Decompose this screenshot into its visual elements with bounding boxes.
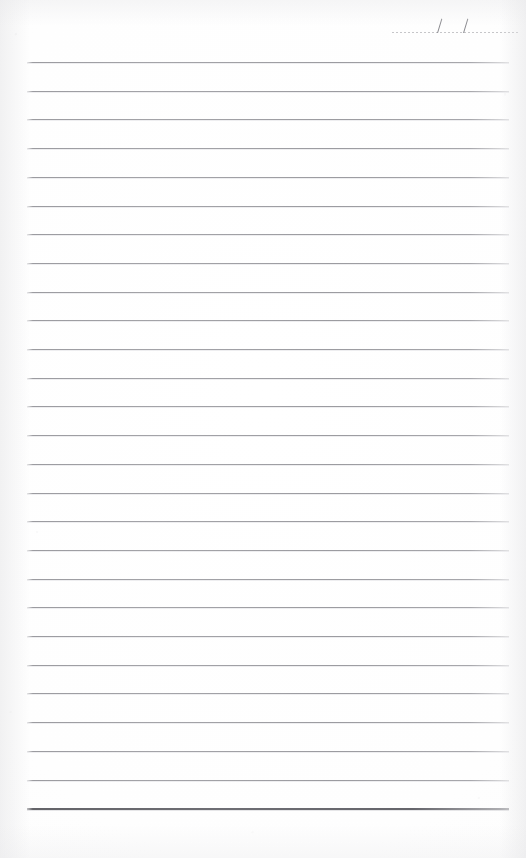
bottom-border-rule bbox=[27, 808, 509, 810]
ruled-line bbox=[27, 550, 509, 551]
ruled-lines-container bbox=[0, 0, 526, 858]
ruled-line bbox=[27, 780, 509, 781]
ruled-line bbox=[27, 636, 509, 637]
ruled-line bbox=[27, 234, 509, 235]
ruled-line bbox=[27, 722, 509, 723]
ruled-line bbox=[27, 263, 509, 264]
ruled-line bbox=[27, 693, 509, 694]
ruled-line bbox=[27, 464, 509, 465]
ruled-line bbox=[27, 435, 509, 436]
ruled-line bbox=[27, 177, 509, 178]
notebook-page bbox=[0, 0, 526, 858]
ruled-line bbox=[27, 751, 509, 752]
ruled-line bbox=[27, 349, 509, 350]
ruled-line bbox=[27, 378, 509, 379]
ruled-line bbox=[27, 119, 509, 120]
ruled-line bbox=[27, 62, 509, 63]
ruled-line bbox=[27, 607, 509, 608]
ruled-line bbox=[27, 493, 509, 494]
ruled-line bbox=[27, 292, 509, 293]
ruled-line bbox=[27, 91, 509, 92]
ruled-line bbox=[27, 148, 509, 149]
ruled-line bbox=[27, 521, 509, 522]
ruled-line bbox=[27, 665, 509, 666]
ruled-line bbox=[27, 206, 509, 207]
ruled-line bbox=[27, 406, 509, 407]
ruled-line bbox=[27, 320, 509, 321]
ruled-line bbox=[27, 579, 509, 580]
